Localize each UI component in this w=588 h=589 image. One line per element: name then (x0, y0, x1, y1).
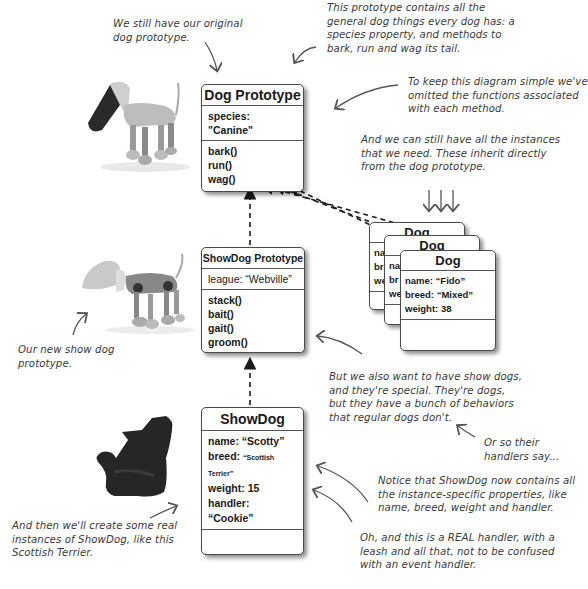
note-show-dogs-special: But we also want to have show dogs, and … (329, 370, 522, 424)
note-line: Our new show dog (18, 343, 115, 357)
box-methods: stack() bait() gait() groom() (202, 290, 304, 352)
note-line: prototype. (18, 357, 115, 371)
note-line: Notice that ShowDog now contains all (378, 474, 575, 488)
property-breed-label: breed: (208, 450, 243, 462)
note-line: from the dog prototype. (361, 160, 560, 174)
note-line: and they're special. They're dogs, (329, 384, 522, 398)
dog-instance-box-fido: Dog name: “Fido” breed: “Mixed” weight: … (400, 250, 496, 351)
property-handler: handler: “Cookie” (208, 496, 297, 526)
method-run: run() (208, 158, 297, 172)
note-line: handlers say... (484, 450, 559, 464)
property-weight: weight: 38 (405, 302, 491, 316)
note-line: species property, and methods to (327, 28, 515, 42)
note-line: general dog things every dog has: a (327, 15, 515, 29)
note-line: Scottish Terrier. (12, 546, 177, 560)
note-line: name, breed, weight and handler. (378, 501, 575, 515)
property-weight: weight: 15 (208, 481, 297, 496)
box-title: Dog Prototype (202, 85, 303, 106)
note-instances: And we can still have all the instances … (361, 133, 560, 174)
note-line: dog prototype. (113, 31, 243, 45)
note-line: omitted the functions associated (408, 89, 588, 103)
box-title: ShowDog (202, 408, 303, 431)
box-methods: bark() run() wag() (202, 141, 303, 191)
note-line: but they have a bunch of behaviors (329, 397, 522, 411)
method-gait: gait() (208, 321, 298, 335)
note-instance-specific: Notice that ShowDog now contains all the… (378, 474, 575, 515)
property-league: league: “Webville” (208, 272, 298, 286)
showdog-box: ShowDog name: “Scotty” breed: “Scottish … (201, 407, 304, 555)
property-breed: breed: “Scottish Terrier” (208, 449, 297, 481)
method-stack: stack() (208, 293, 298, 307)
box-title: Dog (401, 251, 495, 271)
note-line: This prototype contains all the (327, 1, 515, 15)
property-name: name: “Fido” (405, 274, 491, 288)
property-species: species: "Canine" (208, 109, 297, 137)
note-line: with each method. (408, 102, 588, 116)
note-real-handler: Oh, and this is a REAL handler, with a l… (360, 531, 555, 572)
note-line: Or so their (484, 436, 559, 450)
method-bait: bait() (208, 307, 298, 321)
method-bark: bark() (208, 144, 297, 158)
method-groom: groom() (208, 335, 298, 349)
note-line: with an event handler. (360, 558, 555, 572)
note-line: the instance-specific properties, like (378, 488, 575, 502)
note-original-prototype: We still have our original dog prototype… (113, 17, 243, 44)
box-title: ShowDog Prototype (202, 248, 304, 269)
note-line: bark, run and wag its tail. (327, 42, 515, 56)
note-line: And then we'll create some real (12, 519, 177, 533)
property-name: name: “Scotty” (208, 434, 297, 449)
box-methods-empty (202, 530, 303, 554)
note-line: that regular dogs don't. (329, 411, 522, 425)
note-line: To keep this diagram simple we've (408, 75, 588, 89)
box-methods-empty (401, 320, 495, 350)
method-wag: wag() (208, 172, 297, 186)
note-line: And we can still have all the instances (361, 133, 560, 147)
note-line: instances of ShowDog, like this (12, 533, 177, 547)
box-properties: name: “Scotty” breed: “Scottish Terrier”… (202, 431, 303, 530)
showdog-prototype-box: ShowDog Prototype league: “Webville” sta… (201, 247, 305, 353)
dog-prototype-box: Dog Prototype species: "Canine" bark() r… (201, 84, 304, 192)
note-real-instances: And then we'll create some real instance… (12, 519, 177, 560)
box-properties: league: “Webville” (202, 269, 304, 290)
note-omitted-functions: To keep this diagram simple we've omitte… (408, 75, 588, 116)
note-prototype-contents: This prototype contains all the general … (327, 1, 515, 55)
note-line: But we also want to have show dogs, (329, 370, 522, 384)
note-line: that we need. These inherit directly (361, 147, 560, 161)
box-properties: name: “Fido” breed: “Mixed” weight: 38 (401, 271, 495, 320)
note-line: We still have our original (113, 17, 243, 31)
note-new-showdog: Our new show dog prototype. (18, 343, 115, 370)
note-handlers-say: Or so their handlers say... (484, 436, 559, 463)
note-line: leash and all that, not to be confused (360, 545, 555, 559)
box-properties: species: "Canine" (202, 106, 303, 141)
note-line: Oh, and this is a REAL handler, with a (360, 531, 555, 545)
property-breed: breed: “Mixed” (405, 288, 491, 302)
